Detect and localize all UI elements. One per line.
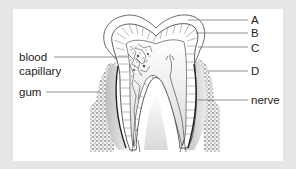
label-blood: blood xyxy=(19,51,47,63)
label-capillary: capillary xyxy=(19,65,61,77)
label-b: B xyxy=(251,27,259,39)
label-nerve: nerve xyxy=(251,94,280,106)
label-a: A xyxy=(251,14,259,26)
label-gum: gum xyxy=(19,86,41,98)
label-d: D xyxy=(251,65,259,77)
label-c: C xyxy=(251,42,259,54)
